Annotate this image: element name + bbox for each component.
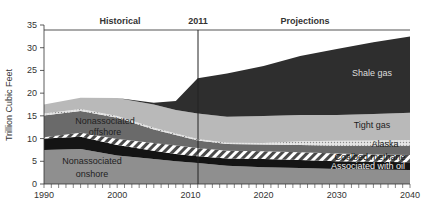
y-axis-ticks: 05101520253035 xyxy=(27,20,44,189)
label-onshore-1: Nonassociated xyxy=(62,156,122,166)
x-axis-ticks: 199020002010202020302040 xyxy=(34,184,420,200)
y-tick-label: 30 xyxy=(27,43,37,53)
label-offshore-1: Nonassociated xyxy=(75,116,135,126)
y-tick-label: 10 xyxy=(27,134,37,144)
y-tick-label: 20 xyxy=(27,88,37,98)
x-tick-label: 1990 xyxy=(34,190,54,200)
projections-label: Projections xyxy=(280,16,329,26)
x-tick-label: 2040 xyxy=(400,190,420,200)
label-offshore-2: offshore xyxy=(89,127,121,137)
label-alaska: Alaska xyxy=(371,139,398,149)
label-tight-gas: Tight gas xyxy=(354,120,391,130)
y-axis-title: Trillion Cubic Feet xyxy=(4,68,14,141)
historical-label: Historical xyxy=(99,16,140,26)
label-shale-gas: Shale gas xyxy=(352,68,393,78)
label-onshore-2: onshore xyxy=(76,169,109,179)
y-tick-label: 25 xyxy=(27,65,37,75)
x-tick-label: 2030 xyxy=(327,190,347,200)
x-tick-label: 2010 xyxy=(180,190,200,200)
x-tick-label: 2020 xyxy=(254,190,274,200)
y-tick-label: 0 xyxy=(32,179,37,189)
y-tick-label: 5 xyxy=(32,156,37,166)
stacked-area-chart: Historical 2011 Projections 051015202530… xyxy=(0,0,429,212)
divider-year-label: 2011 xyxy=(188,16,208,26)
x-tick-label: 2000 xyxy=(107,190,127,200)
y-tick-label: 15 xyxy=(27,111,37,121)
y-tick-label: 35 xyxy=(27,20,37,30)
label-associated-with-oil: Associated with oil xyxy=(331,161,405,171)
